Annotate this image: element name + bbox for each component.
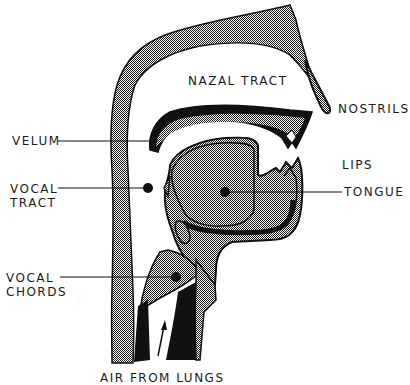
- label-vocal-chords-line2: CHORDS: [6, 285, 67, 299]
- vocal-chords-dot: [171, 272, 181, 282]
- label-vocal-tract: VOCAL TRACT: [10, 182, 58, 210]
- label-vocal-tract-line1: VOCAL: [10, 182, 58, 196]
- nose-tip: [305, 60, 330, 113]
- label-lips: LIPS: [342, 158, 373, 172]
- label-vocal-chords: VOCAL CHORDS: [6, 271, 67, 299]
- label-nostrils: NOSTRILS: [338, 102, 410, 116]
- label-nazal-tract: NAZAL TRACT: [188, 74, 288, 88]
- label-vocal-chords-line1: VOCAL: [6, 271, 67, 285]
- vocal-tract-dot: [143, 183, 153, 193]
- trachea-back-wall: [134, 300, 150, 362]
- tongue-dot: [220, 187, 230, 197]
- trachea-front-wall: [166, 282, 196, 360]
- label-velum: VELUM: [12, 134, 61, 148]
- label-air-from-lungs: AIR FROM LUNGS: [100, 371, 225, 385]
- airflow-arrow: [158, 326, 164, 356]
- airflow-arrowhead: [161, 320, 167, 330]
- label-tongue: TONGUE: [344, 185, 404, 199]
- label-vocal-tract-line2: TRACT: [10, 196, 58, 210]
